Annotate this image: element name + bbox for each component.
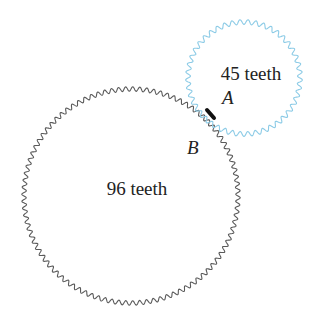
point-b-label: B bbox=[187, 137, 199, 158]
small-gear-label: 45 teeth bbox=[221, 63, 282, 84]
point-a-label: A bbox=[220, 87, 234, 108]
large-gear-label: 96 teeth bbox=[107, 178, 168, 199]
contact-point-mark bbox=[207, 110, 214, 118]
gear-diagram: 45 teeth A B 96 teeth bbox=[0, 0, 310, 323]
